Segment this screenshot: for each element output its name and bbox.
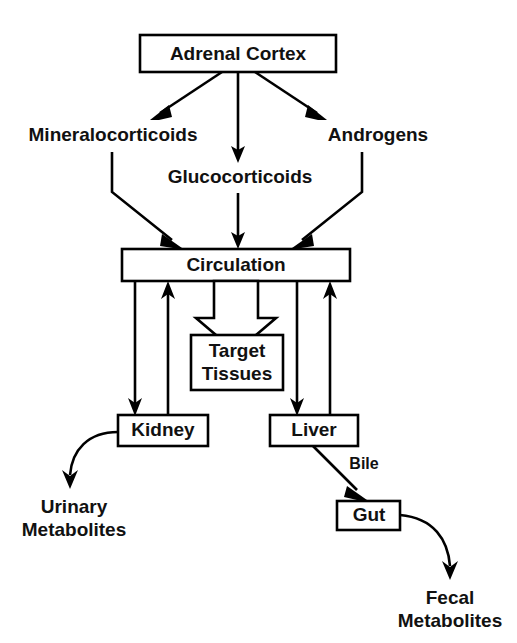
arrow-kidney-to-urinary-metabolites bbox=[62, 432, 118, 489]
arrow-liver-to-gut-bile bbox=[313, 446, 367, 500]
kidney-label: Kidney bbox=[131, 419, 195, 440]
node-circulation: Circulation bbox=[122, 249, 350, 281]
mineralocorticoids-label: Mineralocorticoids bbox=[29, 124, 198, 145]
target-tissues-label-line1: Target bbox=[209, 340, 266, 361]
fecal-metabolites-label-line1: Fecal bbox=[426, 587, 475, 608]
arrow-gut-to-fecal-metabolites bbox=[400, 515, 458, 580]
arrow-liver-to-circulation bbox=[323, 281, 337, 416]
adrenal-cortex-flow-diagram: Adrenal Cortex Mineralocorticoids Glucoc… bbox=[0, 0, 517, 643]
arrow-cortex-to-glucocorticoids bbox=[231, 72, 245, 163]
androgens-label: Androgens bbox=[328, 124, 428, 145]
arrow-cortex-to-mineralocorticoids bbox=[150, 72, 222, 120]
urinary-metabolites-label-line1: Urinary bbox=[41, 496, 108, 517]
fecal-metabolites-label-line2: Metabolites bbox=[398, 610, 503, 631]
node-gut: Gut bbox=[337, 501, 400, 530]
arrow-circulation-to-kidney bbox=[128, 281, 142, 416]
liver-label: Liver bbox=[291, 419, 337, 440]
glucocorticoids-label: Glucocorticoids bbox=[168, 166, 313, 187]
diagram-canvas: Adrenal Cortex Mineralocorticoids Glucoc… bbox=[0, 0, 517, 643]
node-adrenal-cortex: Adrenal Cortex bbox=[140, 35, 336, 72]
node-target-tissues: Target Tissues bbox=[191, 335, 283, 390]
arrow-glucocorticoids-to-circulation bbox=[231, 193, 245, 249]
arrow-circulation-to-liver bbox=[290, 281, 304, 416]
adrenal-cortex-label: Adrenal Cortex bbox=[170, 43, 307, 64]
circulation-label: Circulation bbox=[186, 254, 285, 275]
arrow-kidney-to-circulation bbox=[161, 281, 175, 416]
gut-label: Gut bbox=[353, 504, 386, 525]
bile-edge-label: Bile bbox=[349, 455, 378, 472]
node-liver: Liver bbox=[270, 415, 358, 446]
arrow-cortex-to-androgens bbox=[255, 72, 327, 120]
urinary-metabolites-label-line2: Metabolites bbox=[22, 519, 127, 540]
target-tissues-label-line2: Tissues bbox=[202, 363, 272, 384]
node-kidney: Kidney bbox=[118, 415, 208, 446]
